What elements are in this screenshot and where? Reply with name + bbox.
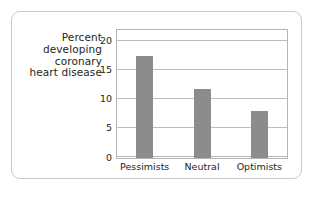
y-tick-label-5: 5 xyxy=(90,123,112,133)
bar-optimists xyxy=(251,111,268,158)
y-axis-tick-labels: 05101520 xyxy=(88,29,112,159)
bar-pessimists xyxy=(136,56,153,158)
bar-series xyxy=(116,29,288,159)
figure-root: Percent developing coronary heart diseas… xyxy=(0,0,315,201)
x-tick-label-optimists: Optimists xyxy=(223,161,295,173)
y-tick-label-15: 15 xyxy=(90,65,112,75)
y-tick-label-10: 10 xyxy=(90,94,112,104)
bar-neutral xyxy=(194,89,211,158)
y-tick-label-20: 20 xyxy=(90,36,112,46)
x-axis-category-labels: PessimistsNeutralOptimists xyxy=(110,161,294,177)
